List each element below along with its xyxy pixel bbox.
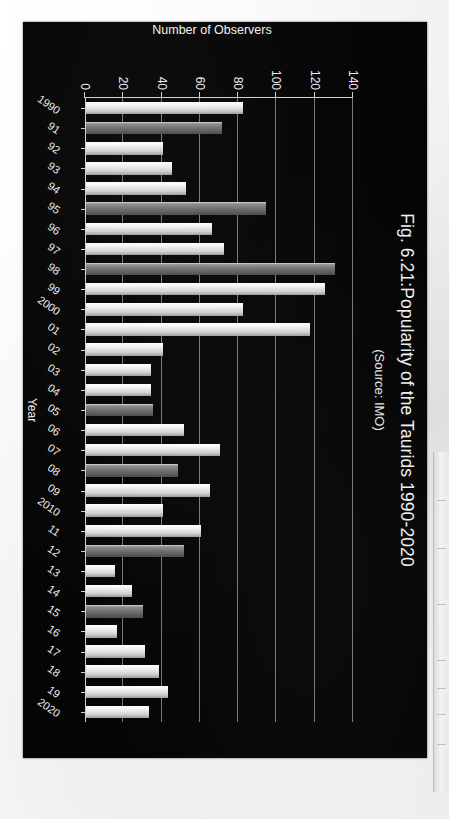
category-label-97: 97 bbox=[46, 240, 63, 257]
category-tick-mark bbox=[81, 470, 85, 471]
bar-99 bbox=[86, 283, 325, 295]
bar-05 bbox=[86, 404, 153, 416]
bar-08 bbox=[86, 464, 178, 476]
category-tick-mark bbox=[81, 269, 85, 270]
category-tick-mark bbox=[81, 652, 85, 653]
plot-area bbox=[85, 98, 353, 722]
value-axis: 020406080100120140 Number of Observers bbox=[85, 22, 353, 98]
bar-16 bbox=[86, 625, 117, 637]
category-tick-mark bbox=[81, 229, 85, 230]
bar-96 bbox=[86, 223, 212, 235]
bar-09 bbox=[86, 484, 210, 496]
chart: Fig. 6.21:Popularity of the Taurids 1990… bbox=[23, 22, 427, 758]
ghost-text-line bbox=[437, 688, 446, 689]
category-label-19: 19 bbox=[46, 683, 63, 700]
category-label-13: 13 bbox=[46, 562, 63, 579]
category-label-94: 94 bbox=[46, 180, 63, 197]
category-tick-mark bbox=[81, 370, 85, 371]
category-tick-mark bbox=[81, 430, 85, 431]
bar-2010 bbox=[86, 504, 163, 516]
bar-95 bbox=[86, 202, 266, 214]
ghost-text-line bbox=[437, 500, 446, 501]
category-label-2000: 2000 bbox=[36, 293, 63, 317]
category-tick-mark bbox=[81, 309, 85, 310]
category-label-06: 06 bbox=[46, 421, 63, 438]
chart-title: Fig. 6.21:Popularity of the Taurids 1990… bbox=[396, 22, 417, 758]
bar-06 bbox=[86, 424, 184, 436]
category-axis-title: Year bbox=[25, 98, 39, 722]
bar-94 bbox=[86, 182, 186, 194]
category-label-09: 09 bbox=[46, 482, 63, 499]
category-label-12: 12 bbox=[46, 542, 63, 559]
category-tick-mark bbox=[81, 148, 85, 149]
category-tick-mark bbox=[81, 289, 85, 290]
category-label-03: 03 bbox=[46, 361, 63, 378]
bar-19 bbox=[86, 686, 168, 698]
category-tick-mark bbox=[81, 611, 85, 612]
bar-04 bbox=[86, 384, 151, 396]
category-axis: 1990919293949596979899200001020304050607… bbox=[23, 98, 85, 722]
category-tick-mark bbox=[81, 450, 85, 451]
ghost-text-line bbox=[437, 714, 446, 715]
category-tick-mark bbox=[81, 329, 85, 330]
category-label-96: 96 bbox=[46, 220, 63, 237]
category-tick-mark bbox=[81, 108, 85, 109]
rotated-chart-container: Fig. 6.21:Popularity of the Taurids 1990… bbox=[23, 22, 427, 758]
bar-1990 bbox=[86, 102, 243, 114]
value-tick-label: 20 bbox=[116, 77, 130, 90]
adjacent-table-fragment bbox=[433, 452, 449, 792]
category-tick-mark bbox=[81, 168, 85, 169]
bar-series bbox=[86, 98, 353, 722]
bar-02 bbox=[86, 343, 163, 355]
category-label-01: 01 bbox=[46, 321, 63, 338]
category-tick-mark bbox=[81, 692, 85, 693]
category-label-91: 91 bbox=[46, 119, 63, 136]
bar-93 bbox=[86, 162, 172, 174]
category-tick-mark bbox=[81, 672, 85, 673]
category-tick-mark bbox=[81, 189, 85, 190]
bar-2000 bbox=[86, 303, 243, 315]
category-tick-mark bbox=[81, 249, 85, 250]
category-tick-mark bbox=[81, 531, 85, 532]
category-label-04: 04 bbox=[46, 381, 63, 398]
bar-01 bbox=[86, 323, 310, 335]
bar-97 bbox=[86, 243, 224, 255]
category-tick-mark bbox=[81, 591, 85, 592]
category-label-15: 15 bbox=[46, 602, 63, 619]
category-label-14: 14 bbox=[46, 582, 63, 599]
category-label-18: 18 bbox=[46, 663, 63, 680]
value-tick-label: 120 bbox=[308, 70, 322, 90]
bar-13 bbox=[86, 565, 115, 577]
bar-91 bbox=[86, 122, 222, 134]
bar-17 bbox=[86, 645, 145, 657]
category-tick-mark bbox=[81, 410, 85, 411]
chart-subtitle: (Source: IMO) bbox=[372, 22, 387, 758]
category-label-1990: 1990 bbox=[36, 92, 63, 116]
bar-92 bbox=[86, 142, 163, 154]
bar-15 bbox=[86, 605, 143, 617]
category-tick-mark bbox=[81, 712, 85, 713]
bar-18 bbox=[86, 665, 159, 677]
bar-12 bbox=[86, 545, 184, 557]
category-label-17: 17 bbox=[46, 643, 63, 660]
category-label-2010: 2010 bbox=[36, 495, 63, 519]
category-label-93: 93 bbox=[46, 160, 63, 177]
category-tick-mark bbox=[81, 390, 85, 391]
category-tick-mark bbox=[81, 350, 85, 351]
ghost-text-line bbox=[437, 744, 446, 745]
bar-07 bbox=[86, 444, 220, 456]
value-axis-title: Number of Observers bbox=[62, 23, 362, 37]
category-label-05: 05 bbox=[46, 401, 63, 418]
category-tick-mark bbox=[81, 511, 85, 512]
value-tick-label: 100 bbox=[269, 70, 283, 90]
category-label-08: 08 bbox=[46, 461, 63, 478]
ghost-text-line bbox=[437, 548, 446, 549]
ghost-text-line bbox=[437, 604, 446, 605]
category-tick-mark bbox=[81, 209, 85, 210]
category-label-99: 99 bbox=[46, 280, 63, 297]
category-label-02: 02 bbox=[46, 341, 63, 358]
ghost-text-line bbox=[437, 660, 446, 661]
bar-2020 bbox=[86, 706, 149, 718]
value-tick-label: 0 bbox=[78, 83, 92, 90]
bar-98 bbox=[86, 263, 335, 275]
